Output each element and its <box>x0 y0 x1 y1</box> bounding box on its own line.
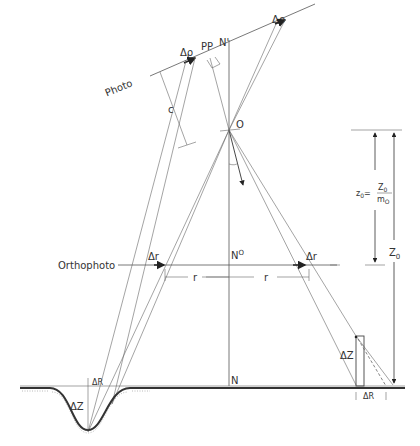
right-ray-extension <box>356 336 393 385</box>
right-ray-to-top <box>229 130 356 336</box>
o-label: O <box>236 119 244 130</box>
delta-r-left-label: Δr <box>148 251 160 262</box>
relief-dashed-line <box>358 339 386 386</box>
delta-R-right-label: ΔR <box>363 392 374 401</box>
pp-right-angle-mark <box>207 57 220 68</box>
photo-plane-line <box>150 4 315 76</box>
left-ray-b <box>112 130 229 404</box>
n-o-label: NO <box>231 249 244 261</box>
optical-axis-arrow <box>229 130 243 185</box>
building-top-point <box>355 336 358 339</box>
photo-label: Photo <box>103 77 134 98</box>
n-label: N <box>231 375 238 386</box>
left-ray-a <box>88 130 229 432</box>
delta-z-right-label: ΔZ <box>340 350 354 361</box>
diagram-canvas: Photo c Δρ PP N' Δρ O Orthophoto Δr Δr N… <box>0 0 420 446</box>
delta-r-right-label: Δr <box>306 251 318 262</box>
c-label: c <box>168 104 174 115</box>
right-ray-upper-a <box>229 24 276 130</box>
delta-z-left-label: ΔZ <box>70 401 84 412</box>
n-prime-label: N' <box>219 37 229 48</box>
building-rect <box>356 336 364 386</box>
pp-label: PP <box>201 41 213 52</box>
orthophoto-geometry-diagram: Photo c Δρ PP N' Δρ O Orthophoto Δr Δr N… <box>0 0 420 446</box>
right-ray-upper-b <box>229 20 285 130</box>
r-left-label: r <box>193 272 198 283</box>
z0-formula: z0= <box>356 189 371 199</box>
z0-numerator: Z0 <box>378 183 387 193</box>
ground-hatching <box>22 391 150 433</box>
principal-axis-line <box>210 58 229 130</box>
c-dimension-tick <box>178 142 196 148</box>
r-right-label: r <box>264 272 269 283</box>
delta-rho-left-label: Δρ <box>180 47 193 58</box>
z0-denominator: mO <box>377 195 390 205</box>
orthophoto-label: Orthophoto <box>58 260 115 271</box>
Z0-label: Z0 <box>389 247 400 261</box>
delta-R-left-label: ΔR <box>92 378 103 387</box>
left-ray-inner <box>112 58 195 404</box>
tilt-angle-arc <box>229 163 238 165</box>
left-ray-outer <box>88 61 186 432</box>
right-ray-to-ground <box>229 130 356 385</box>
